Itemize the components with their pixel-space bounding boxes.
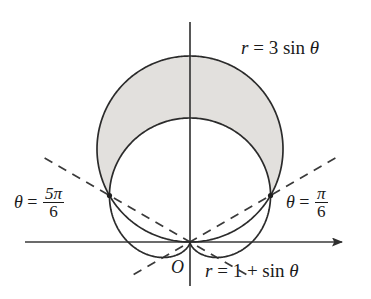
label-theta-right-symbol: θ (286, 192, 295, 212)
label-theta-left-symbol: θ (14, 192, 23, 212)
label-circle-r: r (241, 37, 248, 58)
intersection-point-left (107, 193, 112, 198)
fraction-pi-over-6: π 6 (315, 185, 328, 221)
fraction-5pi-over-6: 5π 6 (43, 185, 64, 221)
fraction-numerator: π (315, 185, 328, 202)
label-cardioid-one: 1 (233, 260, 243, 281)
label-theta-5pi-6: θ = 5π 6 (14, 185, 65, 221)
fraction-denominator: 6 (315, 202, 328, 220)
label-cardioid-sin: sin (262, 260, 284, 281)
label-circle-theta: θ (310, 37, 319, 58)
fraction-denominator: 6 (43, 202, 64, 220)
label-circle-equation: r = 3 sin θ (241, 38, 319, 57)
label-circle-sin: sin (283, 37, 305, 58)
label-cardioid-plus: + (247, 260, 258, 281)
label-cardioid-theta: θ (289, 260, 298, 281)
label-theta-right-equals: = (299, 192, 309, 212)
label-theta-left-equals: = (27, 192, 37, 212)
label-circle-equals: = (253, 37, 264, 58)
intersection-point-right (268, 193, 273, 198)
label-circle-coefficient: 3 (269, 37, 279, 58)
label-cardioid-r: r (205, 260, 212, 281)
label-cardioid-equals: = (217, 260, 228, 281)
label-cardioid-equation: r = 1 + sin θ (205, 261, 299, 280)
fraction-numerator: 5π (43, 185, 64, 202)
label-theta-pi-6: θ = π 6 (286, 185, 329, 221)
label-origin: O (171, 258, 184, 276)
